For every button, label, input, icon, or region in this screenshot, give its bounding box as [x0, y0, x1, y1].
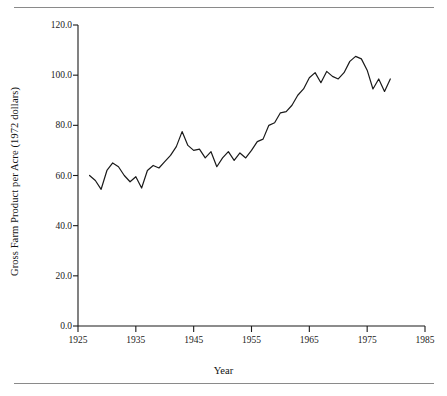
- y-axis-tick-label: 120.0: [20, 20, 72, 31]
- axes: [73, 25, 425, 332]
- chart-plot: [0, 0, 447, 396]
- y-axis-tick-label: 0.0: [20, 321, 72, 332]
- x-axis-tick-label: 1975: [358, 335, 377, 346]
- x-axis-label: Year: [0, 365, 447, 376]
- y-axis-tick-label: 20.0: [20, 270, 72, 281]
- data-series-line: [90, 56, 391, 189]
- x-axis-tick-label: 1925: [69, 335, 88, 346]
- x-axis-ticks: [78, 326, 425, 332]
- x-axis-tick-label: 1935: [126, 335, 145, 346]
- y-axis-label: Gross Farm Product per Acre (1972 dollar…: [9, 72, 20, 292]
- x-axis-tick-label: 1955: [242, 335, 261, 346]
- y-axis-tick-label: 100.0: [20, 70, 72, 81]
- y-axis-ticks: [73, 25, 78, 326]
- y-axis-tick-label: 60.0: [20, 170, 72, 181]
- figure: 0.020.040.060.080.0100.0120.0 1925193519…: [0, 0, 447, 396]
- x-axis-tick-label: 1985: [416, 335, 435, 346]
- x-axis-tick-label: 1945: [184, 335, 203, 346]
- y-axis-tick-label: 40.0: [20, 220, 72, 231]
- x-axis-tick-label: 1965: [300, 335, 319, 346]
- y-axis-tick-label: 80.0: [20, 120, 72, 131]
